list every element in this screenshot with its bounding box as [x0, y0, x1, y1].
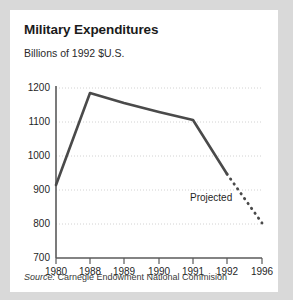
source-note: Source: Carnegie Endowment National Comm…: [24, 272, 227, 282]
chart-title: Military Expenditures: [24, 22, 158, 37]
y-tick-label-1200: 1200: [16, 83, 50, 93]
plot-area: 1200 1100 1000 900 800 700 1980 1988 198…: [24, 68, 268, 264]
y-tick-label-800: 800: [16, 219, 50, 229]
line-chart-svg: [24, 68, 268, 264]
x-tick-label-1996: 1996: [242, 267, 282, 277]
x-axis: [56, 258, 262, 264]
series-projected-line: [227, 174, 262, 223]
projected-annotation: Projected: [190, 192, 232, 203]
y-tick-label-1100: 1100: [16, 117, 50, 127]
y-tick-label-900: 900: [16, 185, 50, 195]
gridlines: [56, 88, 262, 224]
y-tick-label-1000: 1000: [16, 151, 50, 161]
source-text: Carnegie Endowment National Commision: [58, 272, 228, 282]
series-actual-line: [56, 93, 227, 185]
chart-subtitle: Billions of 1992 $U.S.: [24, 47, 124, 59]
chart-card: Military Expenditures Billions of 1992 $…: [10, 10, 278, 292]
source-label: Source:: [24, 272, 55, 282]
y-tick-label-700: 700: [16, 253, 50, 263]
